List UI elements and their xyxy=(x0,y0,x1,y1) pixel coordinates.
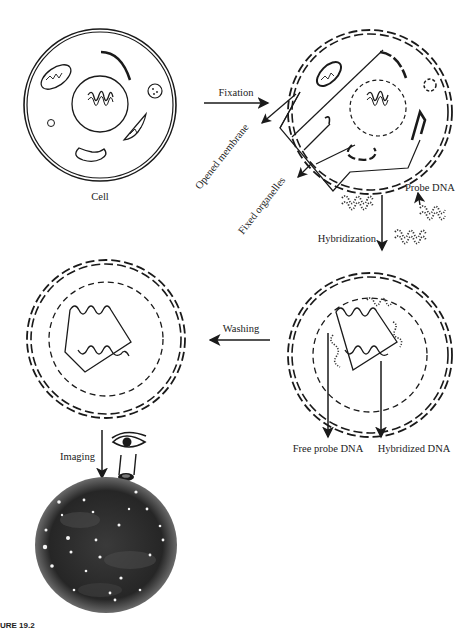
golgi-icon xyxy=(124,114,146,140)
fixation-label: Fixation xyxy=(218,87,254,98)
probe-dna-label: Probe DNA xyxy=(405,182,455,193)
er-icon xyxy=(101,52,130,80)
hybridization-label: Hybridization xyxy=(318,233,377,244)
eye-icon xyxy=(112,432,146,447)
fixed-organelles-label: Fixed organelles xyxy=(236,175,287,237)
probe-dna-arrow xyxy=(418,193,420,205)
imaging-label: Imaging xyxy=(60,451,96,462)
cell-diagram: Cell xyxy=(24,29,176,202)
washed-cell-diagram xyxy=(27,260,185,418)
hybridized-cell-diagram xyxy=(288,273,452,437)
fixed-organelles-arrow xyxy=(298,163,312,177)
hybridized-dna-label: Hybridized DNA xyxy=(378,443,451,454)
figure-caption: URE 19.2 xyxy=(0,621,35,630)
nucleus xyxy=(72,76,128,132)
fluorescence-micrograph xyxy=(35,477,177,613)
small-vesicle-icon xyxy=(48,120,55,127)
vesicle-icon xyxy=(148,84,162,98)
mitochondrion-icon xyxy=(37,60,75,94)
microscope-eyepiece-icon xyxy=(118,454,136,481)
washing-label: Washing xyxy=(223,323,260,334)
opened-membrane-label: Opened membrane xyxy=(193,121,251,191)
cell-label: Cell xyxy=(91,191,109,202)
free-probe-dna-label: Free probe DNA xyxy=(293,443,364,454)
lysosome-icon xyxy=(76,148,106,161)
